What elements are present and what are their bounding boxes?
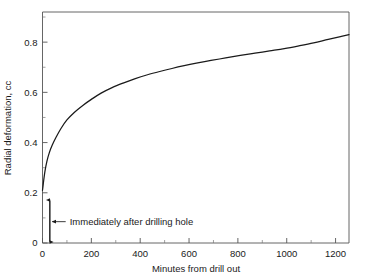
y-axis-major-ticks [43, 42, 48, 243]
x-tick-label: 1200 [325, 248, 346, 259]
y-tick-label: 0.4 [24, 137, 37, 148]
chart-figure: 020040060080010001200 00.20.40.60.8 Imme… [0, 0, 367, 280]
x-axis-tick-labels: 020040060080010001200 [40, 248, 346, 259]
x-tick-label: 800 [230, 248, 246, 259]
annotation-text: Immediately after drilling hole [70, 216, 194, 227]
x-axis-major-ticks [43, 238, 336, 243]
chart-annotations: Immediately after drilling hole [50, 199, 193, 243]
y-tick-label: 0.8 [24, 37, 37, 48]
y-tick-label: 0.6 [24, 87, 37, 98]
y-tick-label: 0 [32, 237, 37, 248]
x-tick-label: 0 [40, 248, 45, 259]
plot-frame [43, 12, 350, 243]
y-tick-label: 0.2 [24, 187, 37, 198]
data-series-group [43, 35, 350, 191]
x-axis-title: Minutes from drill out [152, 263, 241, 274]
data-curve [43, 35, 350, 191]
y-axis-title: Radial deformation, cc [2, 80, 13, 175]
radial-deformation-line-chart: 020040060080010001200 00.20.40.60.8 Imme… [0, 0, 367, 280]
x-tick-label: 600 [181, 248, 197, 259]
x-tick-label: 200 [83, 248, 99, 259]
x-tick-label: 400 [132, 248, 148, 259]
y-axis-tick-labels: 00.20.40.60.8 [24, 37, 37, 249]
x-tick-label: 1000 [276, 248, 297, 259]
